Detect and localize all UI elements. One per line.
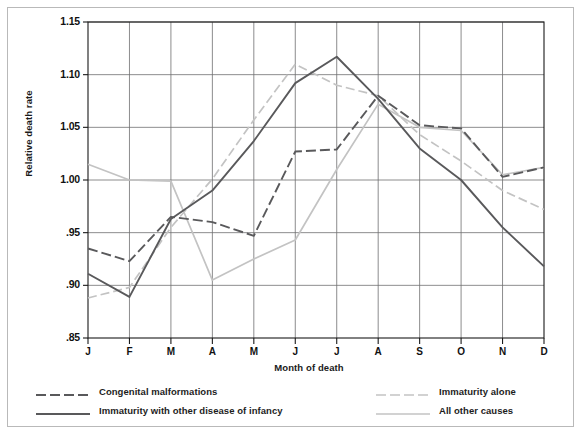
series-line-0 (88, 96, 544, 261)
data-series-layer (88, 57, 544, 298)
x-tick-label: M (242, 346, 266, 357)
series-line-3 (88, 104, 544, 280)
y-tick-label: 1.05 (40, 120, 80, 132)
x-tick-label: S (408, 346, 432, 357)
y-axis-title: Relative death rate (23, 44, 34, 224)
chart-legend: Congenital malformationsImmaturity with … (36, 384, 556, 422)
legend-label: All other causes (439, 405, 513, 416)
legend-swatch (36, 405, 90, 415)
legend-item: Congenital malformations (36, 384, 217, 398)
legend-swatch (376, 405, 430, 415)
plot-area: Relative death rate Month of death 1.151… (0, 0, 581, 434)
series-line-1 (88, 57, 544, 297)
legend-label: Immaturity with other disease of infancy (99, 405, 283, 416)
y-tick-label: 1.10 (40, 68, 80, 80)
chart-figure: Relative death rate Month of death 1.151… (0, 0, 581, 434)
legend-item: Immaturity with other disease of infancy (36, 403, 283, 417)
legend-label: Immaturity alone (439, 386, 516, 397)
legend-swatch (36, 386, 90, 396)
x-tick-label: M (159, 346, 183, 357)
legend-item: All other causes (376, 403, 513, 417)
y-tick-label: .95 (40, 226, 80, 238)
y-tick-label: 1.15 (40, 15, 80, 27)
y-tick-label: .85 (40, 331, 80, 343)
axis-ticks (83, 22, 544, 344)
x-tick-label: D (532, 346, 556, 357)
x-tick-label: J (325, 346, 349, 357)
x-tick-label: J (283, 346, 307, 357)
x-tick-label: J (76, 346, 100, 357)
x-tick-label: F (117, 346, 141, 357)
legend-swatch (376, 386, 430, 396)
y-tick-label: .90 (40, 278, 80, 290)
x-tick-label: O (449, 346, 473, 357)
y-tick-label: 1.00 (40, 173, 80, 185)
x-tick-label: A (366, 346, 390, 357)
x-axis-title: Month of death (84, 362, 534, 373)
legend-label: Congenital malformations (99, 386, 217, 397)
x-tick-label: A (200, 346, 224, 357)
legend-item: Immaturity alone (376, 384, 516, 398)
x-tick-label: N (491, 346, 515, 357)
